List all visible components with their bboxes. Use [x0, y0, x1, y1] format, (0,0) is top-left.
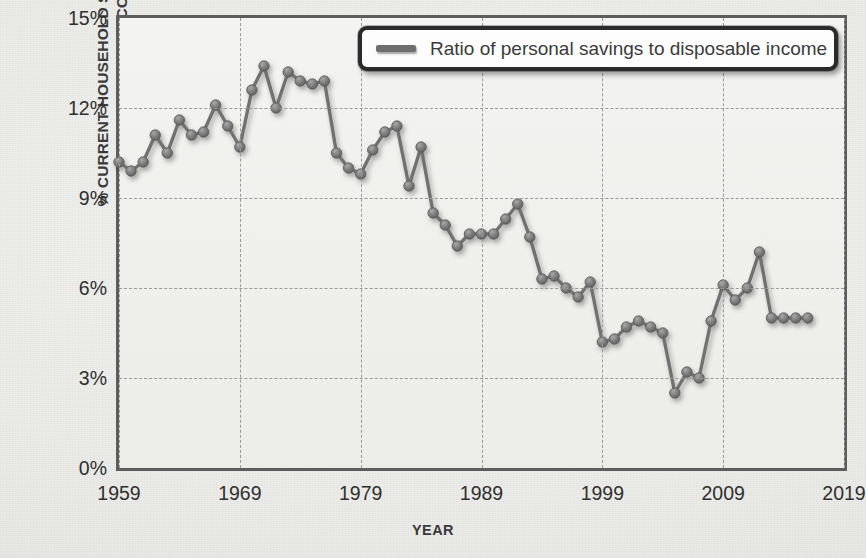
- data-point-marker: [706, 316, 716, 326]
- y-axis-tick-label: 6%: [0, 277, 116, 300]
- data-point-marker: [138, 157, 148, 167]
- data-point-marker: [174, 115, 184, 125]
- x-axis-tick-label: 1969: [185, 482, 295, 505]
- y-axis-tick-label: 15%: [0, 7, 116, 30]
- data-point-marker: [416, 142, 426, 152]
- data-point-marker: [126, 166, 136, 176]
- data-point-marker: [428, 208, 438, 218]
- y-axis-tick-label: 3%: [0, 367, 116, 390]
- x-axis-tick-label: 1979: [306, 482, 416, 505]
- data-point-marker: [440, 220, 450, 230]
- data-point-marker: [162, 148, 172, 158]
- data-point-marker: [392, 121, 402, 131]
- x-axis-tick-label: 1999: [547, 482, 657, 505]
- data-point-marker: [778, 313, 788, 323]
- data-point-marker: [730, 295, 740, 305]
- x-axis-title: YEAR: [0, 522, 866, 538]
- legend: Ratio of personal savings to disposable …: [358, 26, 838, 71]
- gridline-horizontal: [119, 198, 844, 199]
- gridline-vertical: [240, 18, 241, 468]
- data-point-marker: [525, 232, 535, 242]
- data-point-marker: [198, 127, 208, 137]
- data-point-marker: [500, 214, 510, 224]
- gridline-horizontal: [119, 378, 844, 379]
- gridline-vertical: [482, 18, 483, 468]
- data-point-marker: [609, 334, 619, 344]
- data-point-marker: [754, 247, 764, 257]
- data-point-marker: [150, 130, 160, 140]
- gridline-vertical: [602, 18, 603, 468]
- legend-label: Ratio of personal savings to disposable …: [430, 38, 827, 60]
- data-point-marker: [790, 313, 800, 323]
- line-swatch-icon: [376, 45, 416, 52]
- data-point-marker: [633, 316, 643, 326]
- gridline-vertical: [119, 18, 120, 468]
- y-axis-tick-label: 9%: [0, 187, 116, 210]
- gridline-vertical: [844, 18, 845, 468]
- data-point-marker: [283, 67, 293, 77]
- plot-area: [116, 15, 847, 471]
- data-point-marker: [658, 328, 668, 338]
- x-axis-tick-label: 2009: [668, 482, 778, 505]
- gridline-horizontal: [119, 288, 844, 289]
- data-point-marker: [766, 313, 776, 323]
- gridline-horizontal: [119, 108, 844, 109]
- data-point-marker: [343, 163, 353, 173]
- data-point-marker: [307, 79, 317, 89]
- data-point-marker: [682, 367, 692, 377]
- y-axis-tick-label: 12%: [0, 97, 116, 120]
- data-point-marker: [573, 292, 583, 302]
- data-point-marker: [585, 277, 595, 287]
- data-point-marker: [186, 130, 196, 140]
- data-point-marker: [537, 274, 547, 284]
- data-point-marker: [404, 181, 414, 191]
- data-point-marker: [331, 148, 341, 158]
- gridline-vertical: [361, 18, 362, 468]
- data-point-marker: [513, 199, 523, 209]
- series-line: [119, 66, 808, 393]
- chart-canvas: % CURRENT HOUSEHOLD SAVINGS TO DISPOSABL…: [0, 0, 866, 558]
- x-axis-tick-label: 1959: [64, 482, 174, 505]
- data-point-marker: [368, 145, 378, 155]
- data-point-marker: [259, 61, 269, 71]
- data-point-marker: [223, 121, 233, 131]
- data-point-marker: [549, 271, 559, 281]
- data-point-marker: [247, 85, 257, 95]
- data-point-marker: [295, 76, 305, 86]
- data-point-marker: [380, 127, 390, 137]
- data-point-marker: [621, 322, 631, 332]
- y-axis-tick-label: 0%: [0, 457, 116, 480]
- x-axis-tick-label: 2019: [789, 482, 866, 505]
- data-point-marker: [319, 76, 329, 86]
- data-point-marker: [488, 229, 498, 239]
- gridline-vertical: [723, 18, 724, 468]
- data-point-marker: [452, 241, 462, 251]
- data-point-marker: [803, 313, 813, 323]
- data-point-marker: [464, 229, 474, 239]
- data-point-marker: [645, 322, 655, 332]
- x-axis-tick-label: 1989: [427, 482, 537, 505]
- data-point-marker: [670, 388, 680, 398]
